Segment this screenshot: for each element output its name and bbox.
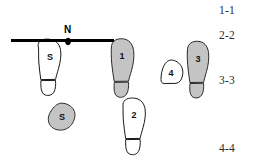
section-label-1-1: 1-1 — [219, 4, 235, 16]
footprint-diagram: S S 1 2 4 3 — [0, 0, 255, 165]
print-s-lower-label: S — [59, 112, 65, 122]
baseline-node-dot — [65, 38, 70, 45]
print-2: 2 — [123, 98, 145, 155]
print-1-label: 1 — [119, 51, 124, 61]
print-4: 4 — [161, 60, 183, 84]
print-2-heel — [126, 139, 141, 154]
print-3-label: 3 — [195, 54, 200, 64]
print-s-upper-label: S — [47, 52, 53, 62]
print-3-heel — [190, 83, 204, 98]
baseline-group: N — [11, 24, 114, 45]
section-label-2-2: 2-2 — [219, 29, 235, 41]
section-label-3-3: 3-3 — [219, 74, 235, 86]
print-1: 1 — [111, 39, 134, 98]
print-3: 3 — [187, 41, 208, 98]
print-s-upper: S — [38, 39, 61, 95]
baseline-node-label: N — [64, 24, 71, 35]
print-s-lower: S — [48, 103, 75, 130]
section-label-4-4: 4-4 — [219, 142, 235, 154]
print-2-label: 2 — [131, 110, 136, 120]
print-4-label: 4 — [168, 68, 173, 78]
print-1-heel — [114, 82, 129, 97]
diagram-canvas: S S 1 2 4 3 — [0, 0, 255, 165]
print-s-upper-heel — [41, 80, 56, 95]
